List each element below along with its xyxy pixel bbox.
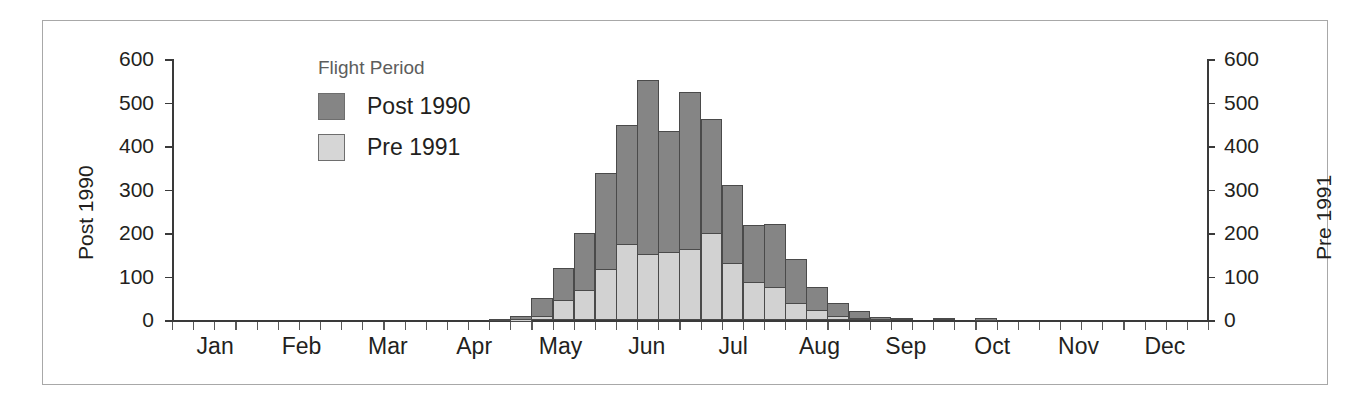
- x-tick: [1060, 322, 1061, 330]
- y-tick-label-left: 500: [94, 92, 154, 113]
- y-tick-label-left: 0: [94, 309, 154, 330]
- bar-pre-1991: [595, 269, 617, 320]
- y-tick-right: [1208, 59, 1215, 61]
- legend-swatch-post-1990: [318, 93, 345, 120]
- bar-post-1990: [891, 318, 913, 321]
- bar-pre-1991: [743, 282, 765, 320]
- x-axis-month-label: May: [516, 335, 606, 358]
- x-tick: [1145, 322, 1146, 330]
- y-tick-label-right: 300: [1224, 179, 1284, 200]
- y-tick-right: [1208, 233, 1215, 235]
- x-axis-month-label: Mar: [343, 335, 433, 358]
- x-axis-month-label: Oct: [947, 335, 1037, 358]
- x-tick: [1166, 322, 1167, 330]
- x-tick: [1208, 322, 1209, 330]
- x-tick: [341, 322, 342, 330]
- bar-pre-1991: [616, 244, 638, 320]
- x-axis-month-label: Jul: [688, 335, 778, 358]
- x-tick: [1081, 322, 1082, 330]
- x-tick: [933, 322, 934, 330]
- x-tick: [510, 322, 511, 330]
- y-tick-left: [165, 190, 172, 192]
- x-tick: [997, 322, 998, 330]
- x-tick: [214, 322, 215, 330]
- x-axis-month-label: Apr: [429, 335, 519, 358]
- x-tick: [616, 322, 617, 330]
- x-axis-line: [172, 320, 1210, 322]
- legend-label-pre-1991: Pre 1991: [367, 136, 460, 159]
- x-axis-month-label: Feb: [257, 335, 347, 358]
- y-tick-left: [165, 320, 172, 322]
- x-tick: [531, 322, 532, 330]
- y-tick-right: [1208, 103, 1215, 105]
- x-axis-month-label: Aug: [775, 335, 865, 358]
- bar-pre-1991: [701, 233, 723, 320]
- y-tick-label-left: 200: [94, 222, 154, 243]
- y-tick-label-right: 500: [1224, 92, 1284, 113]
- bar-pre-1991: [806, 310, 828, 320]
- x-tick: [447, 322, 448, 330]
- y-tick-label-right: 0: [1224, 309, 1284, 330]
- x-tick: [299, 322, 300, 330]
- chart-figure: Post 1990 Pre 1991 0100200300400500600 0…: [0, 0, 1365, 410]
- y-tick-label-left: 600: [94, 48, 154, 69]
- x-tick: [658, 322, 659, 330]
- y-tick-label-left: 300: [94, 179, 154, 200]
- legend-item-post-1990[interactable]: Post 1990: [318, 93, 471, 120]
- x-tick: [827, 322, 828, 330]
- x-axis-month-label: Sep: [861, 335, 951, 358]
- legend-title: Flight Period: [318, 58, 471, 77]
- x-tick: [743, 322, 744, 330]
- x-tick: [1018, 322, 1019, 330]
- bar-pre-1991: [637, 254, 659, 320]
- x-tick: [553, 322, 554, 330]
- bar-post-1990: [489, 319, 511, 322]
- y-tick-label-right: 400: [1224, 135, 1284, 156]
- bar-pre-1991: [827, 316, 849, 320]
- y-tick-right: [1208, 146, 1215, 148]
- x-tick: [320, 322, 321, 330]
- x-tick: [383, 322, 384, 330]
- legend-swatch-pre-1991: [318, 134, 345, 161]
- legend-label-post-1990: Post 1990: [367, 95, 471, 118]
- x-axis-month-label: Dec: [1120, 335, 1210, 358]
- x-tick: [489, 322, 490, 330]
- y-tick-label-right: 600: [1224, 48, 1284, 69]
- y-tick-label-left: 400: [94, 135, 154, 156]
- y-tick-right: [1208, 190, 1215, 192]
- x-tick: [595, 322, 596, 330]
- bar-pre-1991: [658, 252, 680, 320]
- y-axis-left-line: [172, 59, 174, 321]
- y-tick-left: [165, 103, 172, 105]
- x-tick: [954, 322, 955, 330]
- y-tick-label-right: 200: [1224, 222, 1284, 243]
- x-tick: [1102, 322, 1103, 330]
- x-tick: [870, 322, 871, 330]
- x-tick: [172, 322, 173, 330]
- x-tick: [764, 322, 765, 330]
- x-tick: [806, 322, 807, 330]
- bar-pre-1991: [785, 303, 807, 320]
- x-tick: [785, 322, 786, 330]
- bar-pre-1991: [510, 319, 532, 322]
- x-tick: [891, 322, 892, 330]
- legend-item-pre-1991[interactable]: Pre 1991: [318, 134, 471, 161]
- y-tick-left: [165, 233, 172, 235]
- x-tick: [405, 322, 406, 330]
- x-tick: [849, 322, 850, 330]
- x-tick: [1187, 322, 1188, 330]
- y-tick-left: [165, 277, 172, 279]
- x-axis-month-label: Nov: [1034, 335, 1124, 358]
- x-tick: [912, 322, 913, 330]
- chart-legend: Flight Period Post 1990 Pre 1991: [318, 58, 471, 175]
- x-tick: [574, 322, 575, 330]
- x-axis-month-label: Jan: [170, 335, 260, 358]
- x-tick: [679, 322, 680, 330]
- bar-pre-1991: [531, 316, 553, 320]
- bar-pre-1991: [574, 290, 596, 320]
- x-tick: [362, 322, 363, 330]
- x-tick: [426, 322, 427, 330]
- y-tick-label-left: 100: [94, 266, 154, 287]
- x-tick: [235, 322, 236, 330]
- y-axis-right-title: Pre 1991: [1312, 175, 1336, 260]
